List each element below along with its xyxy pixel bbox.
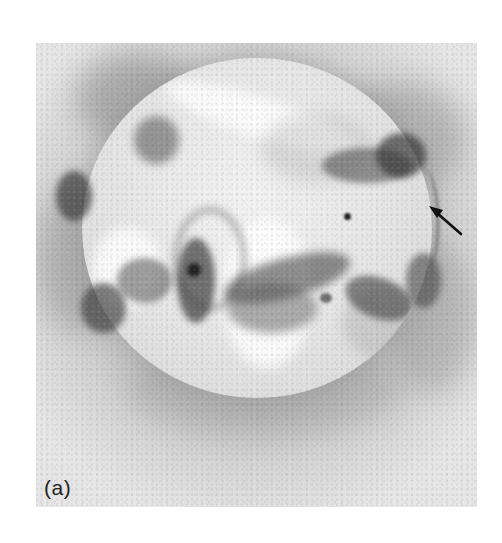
arrow-icon bbox=[0, 0, 502, 543]
